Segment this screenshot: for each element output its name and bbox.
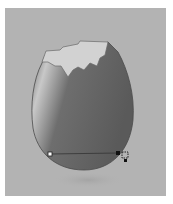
gradient-end-stop-handle[interactable]: [116, 151, 120, 155]
artwork-layer[interactable]: [0, 0, 173, 204]
gradient-tool-cursor-icon: [122, 152, 128, 162]
gradient-start-stop-handle[interactable]: [48, 152, 52, 156]
egg-shadow: [52, 172, 124, 188]
